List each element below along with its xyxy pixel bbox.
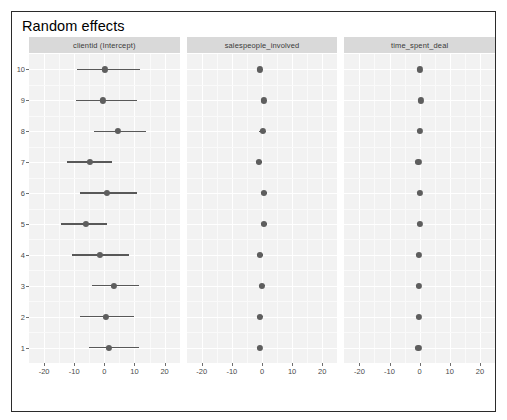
x-axis-tick-label: 0 — [102, 367, 106, 376]
facet-panel-2: salespeople_involved-20-1001020 — [187, 37, 338, 385]
x-axis-tick — [262, 363, 263, 366]
x-axis-tick-label: -10 — [69, 367, 80, 376]
y-axis: 12345678910 — [12, 37, 29, 385]
x-axis-tick-label: -10 — [226, 367, 237, 376]
facet-title-text: salespeople_involved — [225, 41, 300, 50]
y-axis-tick-label: 7 — [21, 158, 25, 167]
x-axis-tick — [232, 363, 233, 366]
x-axis-tick — [359, 363, 360, 366]
gridline-minor-horizontal — [344, 301, 495, 302]
x-axis-2: -20-1001020 — [187, 363, 338, 385]
gridline-minor-horizontal — [29, 301, 180, 302]
estimate-point — [259, 283, 265, 289]
gridline-minor-horizontal — [29, 209, 180, 210]
page-title: Random effects — [22, 18, 125, 34]
gridline-minor-horizontal — [187, 239, 338, 240]
x-axis-tick — [44, 363, 45, 366]
gridline-minor-horizontal — [29, 178, 180, 179]
x-axis-tick — [134, 363, 135, 366]
panel-plot-area-1 — [29, 54, 180, 363]
x-axis-tick-label: 10 — [446, 367, 454, 376]
estimate-point — [417, 190, 423, 196]
panel-plot-area-2 — [187, 54, 338, 363]
estimate-point — [261, 221, 267, 227]
y-axis-tick-label: 10 — [17, 65, 25, 74]
facet-panel-1: clientid (Intercept)-20-1001020 — [29, 37, 180, 385]
gridline-minor-horizontal — [344, 178, 495, 179]
estimate-point — [416, 252, 422, 258]
gridline-minor-horizontal — [344, 239, 495, 240]
estimate-point — [87, 159, 93, 165]
x-axis-tick — [165, 363, 166, 366]
estimate-point — [261, 97, 267, 103]
gridline-minor-horizontal — [187, 209, 338, 210]
gridline-minor-horizontal — [344, 147, 495, 148]
y-axis-tick-label: 8 — [21, 127, 25, 136]
gridline-minor-horizontal — [187, 147, 338, 148]
confidence-interval-bar — [77, 69, 140, 70]
x-axis-tick-label: -20 — [354, 367, 365, 376]
y-axis-tick-label: 6 — [21, 189, 25, 198]
gridline-minor-horizontal — [344, 270, 495, 271]
panel-plot-area-3 — [344, 54, 495, 363]
x-axis-3: -20-1001020 — [344, 363, 495, 385]
x-axis-tick — [390, 363, 391, 366]
gridline-minor-horizontal — [187, 85, 338, 86]
gridline-minor-horizontal — [187, 301, 338, 302]
estimate-point — [417, 97, 423, 103]
estimate-point — [259, 128, 265, 134]
estimate-point — [417, 221, 423, 227]
gridline-minor-horizontal — [29, 239, 180, 240]
facet-title-text: clientid (Intercept) — [73, 41, 136, 50]
y-axis-tick-label: 2 — [21, 312, 25, 321]
x-axis-tick — [292, 363, 293, 366]
x-axis-tick — [420, 363, 421, 366]
estimate-point — [83, 221, 89, 227]
y-axis-tick-label: 5 — [21, 219, 25, 228]
gridline-minor-horizontal — [29, 147, 180, 148]
estimate-point — [261, 190, 267, 196]
x-axis-tick-label: 20 — [318, 367, 326, 376]
estimate-point — [111, 283, 117, 289]
x-axis-tick — [480, 363, 481, 366]
estimate-point — [102, 314, 108, 320]
confidence-interval-bar — [89, 347, 139, 348]
gridline-minor-horizontal — [187, 332, 338, 333]
x-axis-tick — [74, 363, 75, 366]
gridline-minor-horizontal — [29, 85, 180, 86]
x-axis-tick-label: 10 — [288, 367, 296, 376]
plot-window: Random effects 12345678910 clientid (Int… — [11, 11, 496, 412]
gridline-minor-horizontal — [344, 332, 495, 333]
gridline-minor-horizontal — [29, 116, 180, 117]
facet-strip-label-3: time_spent_deal — [344, 37, 495, 53]
gridline-minor-horizontal — [344, 209, 495, 210]
x-axis-tick-label: 0 — [418, 367, 422, 376]
x-axis-tick-label: -20 — [39, 367, 50, 376]
confidence-interval-bar — [76, 100, 137, 101]
facet-panel-grid: clientid (Intercept)-20-1001020salespeop… — [29, 37, 495, 385]
y-axis-tick-label: 4 — [21, 250, 25, 259]
gridline-minor-horizontal — [187, 116, 338, 117]
estimate-point — [416, 283, 422, 289]
gridline-minor-horizontal — [344, 85, 495, 86]
x-axis-tick — [322, 363, 323, 366]
x-axis-tick-label: 0 — [260, 367, 264, 376]
gridline-minor-horizontal — [344, 116, 495, 117]
x-axis-1: -20-1001020 — [29, 363, 180, 385]
gridline-minor-horizontal — [29, 332, 180, 333]
gridline-minor-horizontal — [187, 178, 338, 179]
x-axis-tick-label: 20 — [476, 367, 484, 376]
x-axis-tick-label: 20 — [160, 367, 168, 376]
y-axis-tick-label: 3 — [21, 281, 25, 290]
facet-title-text: time_spent_deal — [391, 41, 448, 50]
estimate-point — [417, 128, 423, 134]
y-axis-tick-label: 9 — [21, 96, 25, 105]
estimate-point — [417, 66, 423, 72]
facet-strip-label-1: clientid (Intercept) — [29, 37, 180, 53]
gridline-minor-horizontal — [187, 270, 338, 271]
gridline-major-horizontal — [187, 162, 338, 163]
estimate-point — [97, 252, 103, 258]
x-axis-tick — [202, 363, 203, 366]
estimate-point — [416, 314, 422, 320]
estimate-point — [106, 344, 112, 350]
